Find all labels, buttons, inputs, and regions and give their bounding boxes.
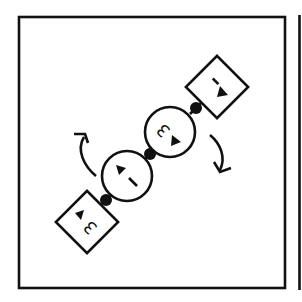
- rotation-arrow-right-icon: [210, 135, 231, 172]
- circle-node-lower: [102, 151, 152, 201]
- diagram-canvas: 3 3: [0, 0, 302, 302]
- rotation-arrow-left-icon: [74, 134, 96, 176]
- connector-dot: [144, 148, 156, 160]
- connector-dot: [190, 102, 202, 114]
- connector-dot: [100, 194, 112, 206]
